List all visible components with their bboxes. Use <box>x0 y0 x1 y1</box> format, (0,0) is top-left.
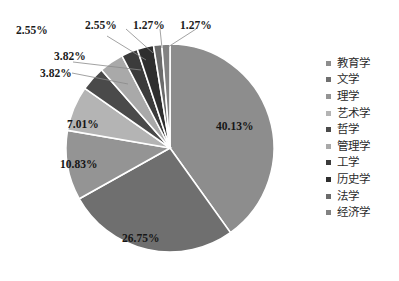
legend-item[interactable]: 法学 <box>326 188 398 205</box>
legend-item-label: 管理学 <box>337 140 370 153</box>
legend-item[interactable]: 哲学 <box>326 121 398 138</box>
legend-swatch-icon <box>326 111 331 116</box>
legend-item-label: 工学 <box>337 156 359 169</box>
legend-item-label: 艺术学 <box>337 107 370 120</box>
legend-swatch-icon <box>326 94 331 99</box>
legend-item[interactable]: 经济学 <box>326 204 398 221</box>
slice-label-literature: 26.75% <box>122 232 159 244</box>
legend-item-label: 教育学 <box>337 57 370 70</box>
slice-label-management: 3.82% <box>54 50 86 62</box>
slice-label-science: 10.83% <box>60 158 97 170</box>
legend-item-label: 经济学 <box>337 206 370 219</box>
legend-item[interactable]: 文学 <box>326 72 398 89</box>
slice-label-history: 2.55% <box>85 19 117 31</box>
legend-swatch-icon <box>326 77 331 82</box>
legend-item[interactable]: 理学 <box>326 88 398 105</box>
slice-label-economics: 1.27% <box>180 19 212 31</box>
pie-slices-group <box>66 44 274 252</box>
chart-legend: 教育学文学理学艺术学哲学管理学工学历史学法学经济学 <box>326 55 398 221</box>
legend-swatch-icon <box>326 61 331 66</box>
slice-label-education: 40.13% <box>216 120 253 132</box>
slice-label-arts: 7.01% <box>67 118 99 130</box>
legend-item[interactable]: 历史学 <box>326 171 398 188</box>
legend-item[interactable]: 教育学 <box>326 55 398 72</box>
legend-item-label: 文学 <box>337 73 359 86</box>
legend-item[interactable]: 工学 <box>326 155 398 172</box>
legend-item-label: 哲学 <box>337 123 359 136</box>
legend-item[interactable]: 管理学 <box>326 138 398 155</box>
legend-swatch-icon <box>326 210 331 215</box>
legend-swatch-icon <box>326 194 331 199</box>
slice-label-engineering: 2.55% <box>16 24 48 36</box>
legend-item-label: 历史学 <box>337 173 370 186</box>
legend-swatch-icon <box>326 144 331 149</box>
slice-label-philosophy: 3.82% <box>40 67 72 79</box>
legend-swatch-icon <box>326 160 331 165</box>
legend-swatch-icon <box>326 127 331 132</box>
slice-label-law: 1.27% <box>133 19 165 31</box>
legend-item-label: 理学 <box>337 90 359 103</box>
legend-swatch-icon <box>326 177 331 182</box>
legend-item-label: 法学 <box>337 190 359 203</box>
pie-chart: 40.13% 26.75% 10.83% 7.01% 3.82% 3.82% 2… <box>0 0 399 281</box>
legend-item[interactable]: 艺术学 <box>326 105 398 122</box>
